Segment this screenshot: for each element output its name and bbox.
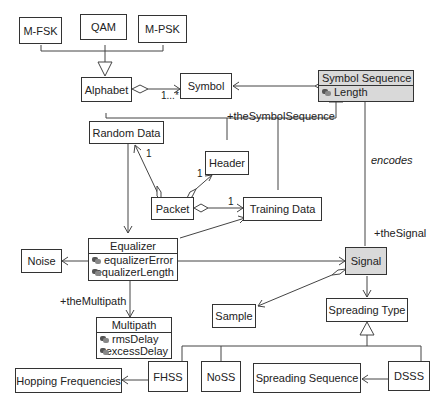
class-name: Spreading Type (329, 304, 406, 316)
class-fhss[interactable]: FHSS (148, 361, 188, 392)
attribute-rms-delay: rmsDelay (100, 333, 168, 345)
multiplicity-label: 1 (197, 168, 203, 179)
attribute-equalizer-length: equalizerLength (92, 266, 174, 278)
class-name: Header (209, 157, 245, 169)
uml-class-diagram: M-FSK QAM M-PSK Alphabet Symbol 1...* Sy… (0, 0, 443, 410)
gen-mfsk-line (41, 45, 163, 51)
class-name: Noise (27, 255, 55, 267)
class-noise[interactable]: Noise (21, 249, 62, 273)
generalization-arrowhead (98, 62, 112, 76)
class-name: Multipath (97, 318, 171, 332)
class-name: DSSS (394, 370, 424, 382)
attribute-equalizer-error: equalizerError (92, 254, 174, 266)
class-name: Signal (351, 255, 382, 267)
class-qam[interactable]: QAM (80, 14, 127, 40)
attribute-excess-delay: excessDelay (100, 345, 168, 357)
attribute-icon (100, 347, 103, 355)
class-name: M-FSK (23, 25, 57, 37)
class-name: Packet (156, 203, 190, 215)
association-label-encodes: encodes (371, 154, 413, 166)
role-the-multipath: +theMultipath (60, 295, 126, 307)
class-random-data[interactable]: Random Data (89, 121, 164, 144)
class-alphabet[interactable]: Alphabet (81, 77, 132, 102)
class-name: Symbol Sequence (319, 71, 413, 85)
class-mfsk[interactable]: M-FSK (19, 17, 62, 44)
class-sample[interactable]: Sample (212, 304, 256, 328)
class-name: Training Data (250, 203, 316, 215)
class-name: QAM (91, 21, 116, 33)
class-name: Spreading Sequence (256, 372, 359, 384)
class-name: NoSS (207, 371, 236, 383)
multiplicity-label: 1 (146, 148, 152, 159)
role-the-signal: +theSignal (374, 227, 426, 239)
attribute-length: Length (322, 86, 410, 98)
attribute-icon (92, 256, 101, 264)
class-spreading-type[interactable]: Spreading Type (326, 298, 408, 322)
class-symbol-sequence[interactable]: Symbol Sequence Length (318, 70, 414, 102)
class-header[interactable]: Header (205, 151, 249, 175)
class-multipath[interactable]: Multipath rmsDelay excessDelay (96, 317, 172, 359)
class-name: Random Data (93, 127, 161, 139)
connectors-layer (0, 0, 443, 410)
class-hopping-frequencies[interactable]: Hopping Frequencies (15, 368, 122, 393)
attribute-icon (100, 335, 109, 343)
class-name: M-PSK (145, 23, 180, 35)
class-dsss[interactable]: DSSS (388, 361, 430, 391)
class-equalizer[interactable]: Equalizer equalizerError equalizerLength (88, 238, 178, 281)
class-name: Hopping Frequencies (16, 375, 121, 387)
class-name: Sample (215, 310, 252, 322)
multiplicity-label: 1...* (161, 90, 179, 101)
class-training-data[interactable]: Training Data (243, 197, 322, 221)
class-signal[interactable]: Signal (345, 247, 387, 275)
role-the-symbol-sequence: +theSymbolSequence (227, 110, 335, 122)
multiplicity-label: 1 (228, 196, 234, 207)
class-name: Alphabet (85, 84, 128, 96)
class-packet[interactable]: Packet (151, 197, 194, 220)
class-name: Equalizer (89, 239, 177, 253)
class-name: Symbol (188, 80, 225, 92)
class-noss[interactable]: NoSS (201, 361, 241, 392)
aggregation-diamond (132, 85, 148, 93)
class-symbol[interactable]: Symbol (180, 73, 232, 99)
class-spreading-sequence[interactable]: Spreading Sequence (253, 363, 361, 393)
attribute-icon (322, 88, 331, 96)
class-mpsk[interactable]: M-PSK (138, 15, 187, 43)
attribute-icon (92, 268, 93, 276)
class-name: FHSS (153, 371, 182, 383)
